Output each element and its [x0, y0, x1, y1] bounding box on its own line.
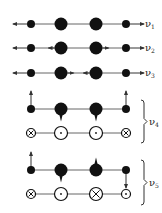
- atom: [90, 164, 103, 177]
- brace: [141, 100, 147, 143]
- mode-label-v1: ν1: [145, 18, 155, 30]
- atom: [90, 18, 103, 31]
- atom: [122, 44, 130, 52]
- brace: [141, 160, 147, 205]
- atom: [27, 20, 35, 28]
- atom: [90, 67, 103, 80]
- mode-label-v4: ν4: [149, 116, 159, 128]
- atom: [122, 69, 130, 77]
- atom: [27, 44, 35, 52]
- atom: [55, 164, 68, 177]
- atom: [55, 67, 68, 80]
- atom: [27, 69, 35, 77]
- atom: [122, 105, 130, 113]
- mode-label-v3: ν3: [145, 67, 155, 79]
- atom: [90, 42, 103, 55]
- out-of-plane-dot-icon: [60, 132, 62, 134]
- atom: [55, 42, 68, 55]
- mode-label-v2: ν2: [145, 42, 155, 54]
- vibrational-modes-diagram: ν1ν2ν3ν4ν5: [0, 0, 162, 213]
- atom: [90, 103, 103, 116]
- mode-label-v5: ν5: [149, 177, 159, 189]
- atom: [55, 18, 68, 31]
- out-of-plane-dot-icon: [125, 193, 127, 195]
- out-of-plane-dot-icon: [60, 193, 62, 195]
- atom: [55, 103, 68, 116]
- out-of-plane-dot-icon: [95, 132, 97, 134]
- atom: [122, 166, 130, 174]
- atom: [27, 105, 35, 113]
- atom: [27, 166, 35, 174]
- atom: [122, 20, 130, 28]
